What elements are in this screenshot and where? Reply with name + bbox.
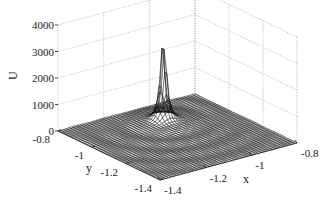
mesh-cell (213, 161, 218, 163)
mesh-cell (165, 136, 170, 138)
mesh-cell (143, 130, 148, 132)
mesh-cell (179, 143, 184, 145)
mesh-cell (177, 156, 182, 158)
mesh-cell (173, 154, 178, 156)
mesh-cell (173, 135, 178, 137)
mesh-cell (159, 124, 164, 127)
mesh-cell (211, 162, 216, 164)
mesh-cell (151, 146, 156, 148)
mesh-cell (189, 143, 194, 145)
mesh-cell (148, 154, 153, 156)
mesh-cell (155, 119, 160, 124)
mesh-cell (203, 150, 208, 152)
mesh-cell (200, 153, 205, 155)
mesh-cell (167, 155, 172, 157)
mesh-cell (147, 133, 152, 135)
mesh-cell (193, 164, 198, 166)
mesh-cell (149, 134, 154, 136)
mesh-cell (184, 145, 189, 147)
mesh-cell (160, 156, 165, 158)
mesh-cell (200, 163, 205, 165)
mesh-cell (164, 132, 169, 134)
mesh-cell (201, 137, 206, 139)
mesh-cell (143, 144, 148, 146)
mesh-cell (223, 145, 228, 147)
mesh-cell (161, 49, 166, 104)
sidewall-grid-z (195, 0, 297, 37)
mesh-cell (168, 135, 173, 137)
mesh-cell (173, 128, 178, 130)
mesh-cell (154, 124, 159, 127)
mesh-cell (172, 130, 177, 132)
mesh-cell (160, 130, 165, 132)
mesh-cell (173, 133, 178, 135)
mesh-cell (164, 124, 169, 127)
z-tick-label: 1000 (32, 99, 55, 111)
mesh-cell (148, 123, 153, 126)
mesh-cell (151, 135, 156, 137)
mesh-cell (198, 152, 203, 154)
mesh-cell (152, 133, 157, 135)
mesh-cell (157, 121, 162, 125)
mesh-cell (204, 136, 209, 138)
mesh-cell (162, 122, 167, 126)
mesh-cell (206, 149, 211, 151)
mesh-cell (165, 120, 170, 124)
mesh-cell (197, 141, 202, 143)
mesh-cell (234, 140, 239, 142)
mesh-cell (201, 151, 206, 153)
mesh-cell (174, 131, 179, 133)
backwall-grid-z (58, 15, 195, 52)
mesh-cell (183, 165, 188, 167)
mesh-cell (133, 143, 138, 145)
backwall-grid-z (58, 0, 195, 25)
mesh-cell (152, 125, 157, 127)
mesh-cell (195, 142, 200, 144)
mesh-cell (145, 143, 150, 145)
mesh-cell (216, 161, 221, 163)
mesh-cell (167, 129, 172, 131)
mesh-cell (190, 154, 195, 156)
mesh-cell (172, 102, 177, 104)
mesh-cell (218, 149, 223, 151)
mesh-cell (214, 149, 219, 151)
mesh-cell (244, 153, 249, 155)
mesh-cell (171, 134, 176, 136)
mesh-cell (144, 134, 149, 136)
sidewall-grid-z (195, 41, 297, 90)
mesh-cell (188, 140, 193, 142)
mesh-cell (186, 144, 191, 146)
mesh-cell (182, 154, 187, 156)
mesh-cell (165, 154, 170, 156)
mesh-cell (170, 155, 175, 157)
mesh-cell (166, 145, 171, 147)
mesh-cell (205, 151, 210, 153)
x-tick-label: -1.2 (210, 172, 227, 184)
mesh-cell (154, 132, 159, 134)
mesh-cell (166, 134, 171, 136)
mesh-cell (158, 134, 163, 136)
mesh-cell (175, 135, 180, 137)
mesh-cell (168, 166, 173, 168)
x-tick-label: -1 (255, 159, 264, 171)
mesh-cell (187, 155, 192, 157)
mesh-cell (138, 143, 143, 145)
mesh-cell (149, 126, 154, 128)
mesh-cell (180, 153, 185, 155)
mesh-cell (192, 143, 197, 145)
mesh-cell (173, 126, 178, 128)
mesh-cell (167, 143, 172, 145)
sidewall-grid-z (195, 15, 297, 64)
mesh-cell (162, 144, 167, 146)
mesh-cell (176, 132, 181, 134)
mesh-cell (147, 144, 152, 146)
mesh-cell (159, 132, 164, 134)
mesh-cell (176, 118, 181, 121)
mesh-cell (177, 142, 182, 144)
x-tick-label: -1.4 (164, 184, 182, 196)
mesh-cell (208, 163, 213, 165)
mesh-cell (179, 145, 184, 147)
mesh-cell (156, 125, 161, 127)
mesh-cell (165, 128, 170, 130)
mesh-cell (180, 166, 185, 168)
